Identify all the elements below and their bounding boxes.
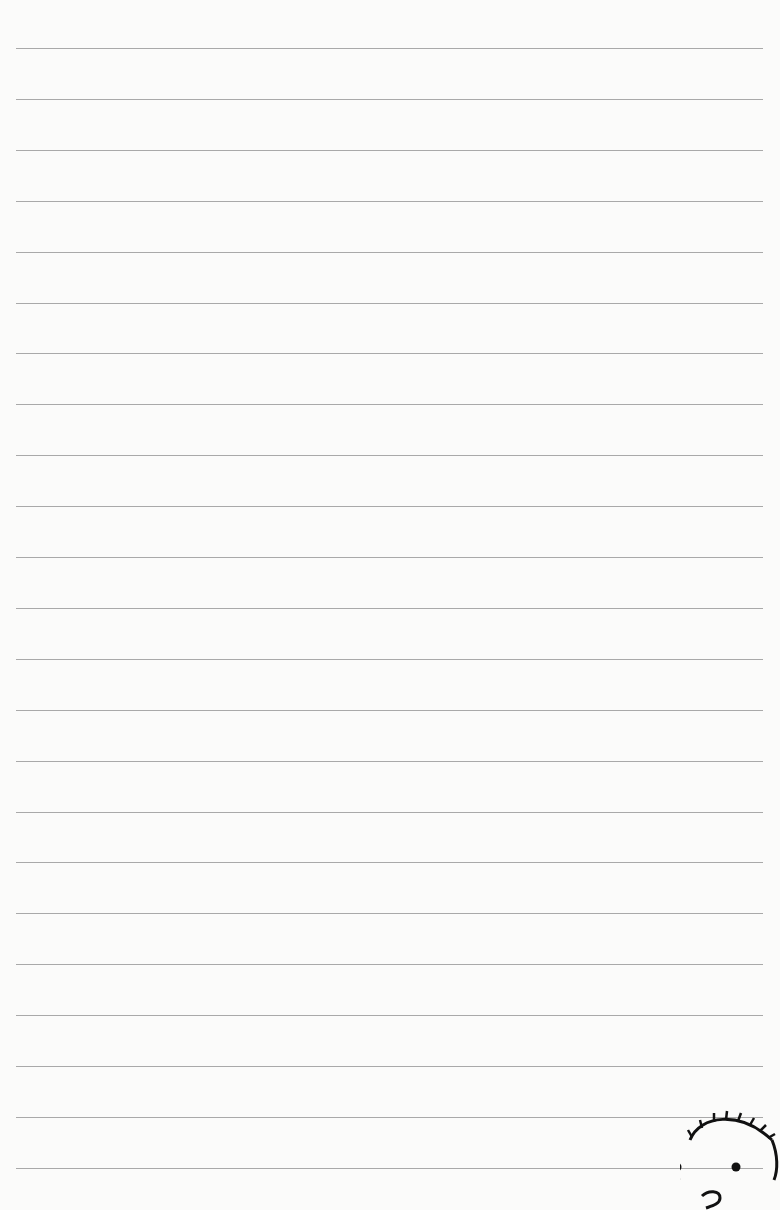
ruled-line xyxy=(16,964,763,965)
ruled-line xyxy=(16,303,763,304)
ruled-line xyxy=(16,353,763,354)
ruled-line xyxy=(16,99,763,100)
ruled-line xyxy=(16,506,763,507)
ruled-line xyxy=(16,710,763,711)
ruled-line xyxy=(16,1168,763,1169)
ruled-line xyxy=(16,455,763,456)
ruled-line xyxy=(16,404,763,405)
ruled-line xyxy=(16,150,763,151)
ruled-line xyxy=(16,862,763,863)
ruled-line xyxy=(16,913,763,914)
ruled-line xyxy=(16,48,763,49)
ruled-line xyxy=(16,812,763,813)
ruled-line xyxy=(16,252,763,253)
ruled-line xyxy=(16,608,763,609)
ruled-line xyxy=(16,1066,763,1067)
ruled-line xyxy=(16,761,763,762)
ruled-line xyxy=(16,1117,763,1118)
ruled-line xyxy=(16,659,763,660)
ruled-line xyxy=(16,557,763,558)
ruled-line xyxy=(16,1015,763,1016)
ruled-line xyxy=(16,201,763,202)
cartoon-face-icon xyxy=(680,1100,780,1210)
